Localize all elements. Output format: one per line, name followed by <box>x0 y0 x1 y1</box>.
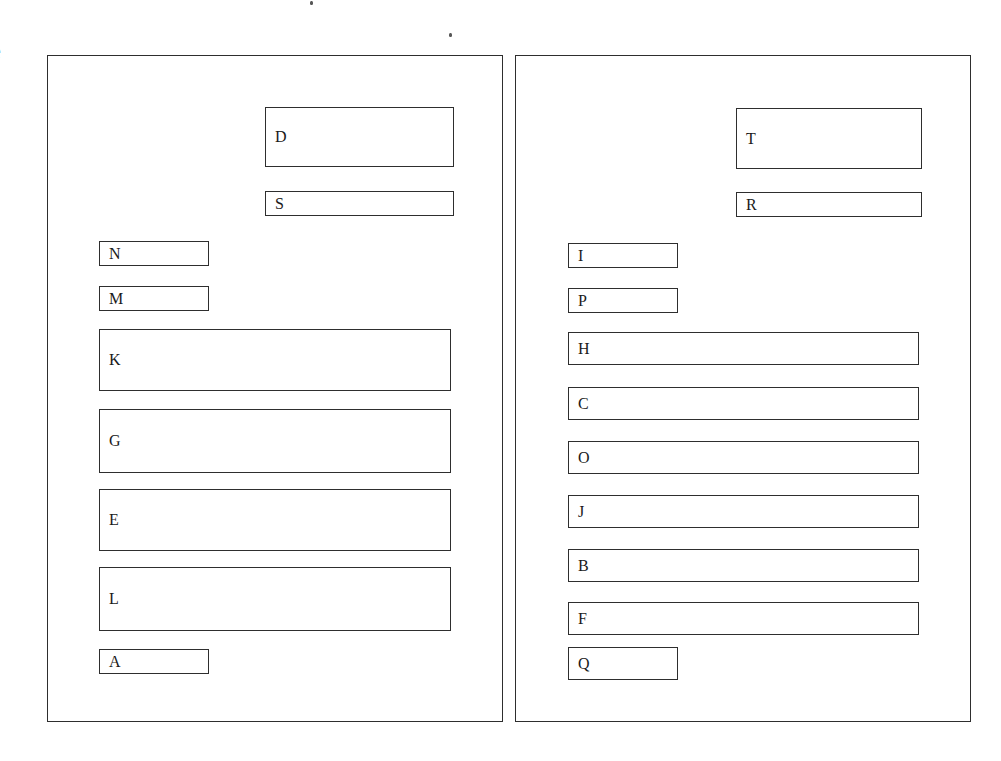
node-box-t[interactable]: T <box>736 108 922 169</box>
node-box-e[interactable]: E <box>99 489 451 551</box>
node-label: L <box>109 591 119 607</box>
node-box-c[interactable]: C <box>568 387 919 420</box>
node-box-f[interactable]: F <box>568 602 919 635</box>
node-label: A <box>109 654 121 670</box>
node-label: Q <box>578 656 590 672</box>
node-box-s[interactable]: S <box>265 191 454 216</box>
node-box-o[interactable]: O <box>568 441 919 474</box>
node-box-i[interactable]: I <box>568 243 678 268</box>
node-label: G <box>109 433 121 449</box>
node-box-q[interactable]: Q <box>568 647 678 680</box>
node-label: P <box>578 293 587 309</box>
node-label: I <box>578 248 583 264</box>
node-label: K <box>109 352 121 368</box>
node-label: R <box>746 197 757 213</box>
node-label: F <box>578 611 587 627</box>
node-label: C <box>578 396 589 412</box>
scan-speck <box>310 1 313 5</box>
node-label: M <box>109 291 123 307</box>
node-box-r[interactable]: R <box>736 192 922 217</box>
node-label: H <box>578 341 590 357</box>
scan-speck <box>449 33 452 37</box>
node-label: E <box>109 512 119 528</box>
node-box-j[interactable]: J <box>568 495 919 528</box>
node-box-a[interactable]: A <box>99 649 209 674</box>
left-panel: DSNMKGELA <box>47 55 503 722</box>
node-label: S <box>275 196 284 212</box>
node-label: D <box>275 129 287 145</box>
node-label: O <box>578 450 590 466</box>
page-canvas: e DSNMKGELATRIPHCOJBFQ <box>0 0 1001 761</box>
node-label: T <box>746 131 756 147</box>
right-panel: TRIPHCOJBFQ <box>515 55 971 722</box>
node-box-l[interactable]: L <box>99 567 451 631</box>
node-box-b[interactable]: B <box>568 549 919 582</box>
node-box-m[interactable]: M <box>99 286 209 311</box>
node-box-g[interactable]: G <box>99 409 451 473</box>
node-box-d[interactable]: D <box>265 107 454 167</box>
node-label: N <box>109 246 121 262</box>
node-box-n[interactable]: N <box>99 241 209 266</box>
margin-cutoff-glyph: e <box>0 40 1 62</box>
node-box-k[interactable]: K <box>99 329 451 391</box>
node-label: B <box>578 558 589 574</box>
node-label: J <box>578 504 584 520</box>
node-box-p[interactable]: P <box>568 288 678 313</box>
node-box-h[interactable]: H <box>568 332 919 365</box>
